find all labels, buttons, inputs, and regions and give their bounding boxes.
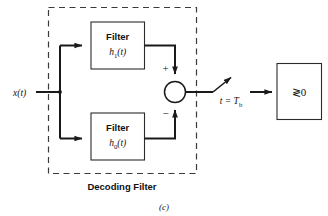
filter-lower-title: Filter (106, 122, 130, 133)
filter-upper-response-arg: (t) (117, 47, 126, 58)
sampling-instant-eq: = (225, 96, 231, 106)
summing-minus-sign: − (162, 107, 168, 119)
filter-lower-response: h0(t) (109, 138, 126, 150)
filter-upper-block (91, 22, 145, 69)
lower-output-wire (145, 110, 176, 139)
summing-junction (165, 82, 186, 103)
decoding-filter-label: Decoding Filter (87, 181, 156, 192)
sampling-instant-lhs: t (220, 96, 223, 106)
sampler-switch-arm (213, 78, 231, 93)
branch-node (58, 90, 62, 94)
sampling-instant-rhs-sub: b (239, 101, 243, 108)
filter-upper-response: h1(t) (109, 47, 126, 59)
filter-upper-title: Filter (106, 31, 130, 42)
filter-lower-block (91, 113, 145, 160)
filter-lower-response-arg: (t) (117, 138, 126, 149)
block-diagram-figure: x(t) Filter h1(t) Filter h0(t) + − t=Tb … (0, 0, 328, 216)
summing-plus-sign: + (162, 62, 168, 74)
sampling-instant-label: t=Tb (220, 96, 243, 108)
upper-output-wire (145, 46, 176, 75)
decision-threshold-label: ≷0 (292, 86, 307, 98)
figure-caption: (c) (159, 202, 169, 212)
input-signal-label: x(t) (12, 88, 26, 99)
